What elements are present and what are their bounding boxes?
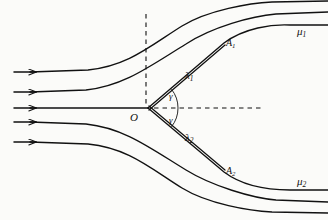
streamline-diagram-svg: [0, 0, 328, 220]
segment-upper-label: λ1: [185, 70, 194, 82]
region-upper-subscript: 1: [303, 30, 307, 39]
streamline-lower-outer: [30, 142, 328, 213]
vertex-upper-label: A1: [226, 38, 236, 49]
angle-lower-label: γ: [169, 116, 173, 125]
origin-label: O: [130, 112, 138, 123]
vertex-lower-label: A2: [226, 166, 236, 177]
vertex-upper-subscript: 1: [232, 42, 235, 49]
segment-lower-subscript: 2: [190, 136, 194, 145]
region-lower-label: μ2: [297, 176, 306, 188]
streamline-upper-inner: [30, 12, 328, 92]
angle-upper-label: γ: [169, 92, 173, 101]
segment-upper-subscript: 1: [190, 74, 194, 83]
segment-lower-label: λ2: [185, 132, 194, 144]
region-upper-label: μ1: [297, 26, 306, 38]
incoming-arrow-stubs: [14, 72, 36, 142]
vertex-lower-subscript: 2: [232, 170, 235, 177]
region-lower-subscript: 2: [303, 180, 307, 189]
streamline-upper-outer: [30, 1, 328, 72]
streamlines-group: [30, 1, 328, 213]
figure-canvas: O A1 A2 λ1 λ2 μ1 μ2 γ γ: [0, 0, 328, 220]
